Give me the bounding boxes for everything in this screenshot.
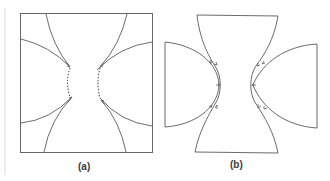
arrow-marker [68,97,72,102]
arc-bottom-left [44,97,72,152]
panel-a-label: (a) [78,161,90,173]
panel-b [165,15,317,153]
dotted-arc-left [68,68,71,97]
arc-left-lower [21,97,72,123]
arc-right-upper [97,42,152,70]
arrow-marker [66,62,70,67]
panel-b-label: (b) [230,159,243,171]
arc-left-upper [21,39,70,67]
hourglass-outline [195,15,278,153]
half-disc-left [165,42,219,127]
arrow-marker [214,62,217,65]
arrow-marker [258,104,261,108]
diagram-figure [0,0,330,181]
arc-top-left [46,14,70,67]
panel-a [21,14,153,153]
arc-top-right [100,14,127,67]
dotted-arc-right [98,68,100,98]
arrow-marker [100,62,104,67]
arc-bottom-right [102,101,126,152]
panel-a-frame [21,14,153,153]
arrow-marker [262,61,265,64]
arrow-marker [216,83,220,87]
arrow-marker [257,63,260,66]
arc-right-lower [100,98,152,126]
arrow-marker [215,105,217,109]
